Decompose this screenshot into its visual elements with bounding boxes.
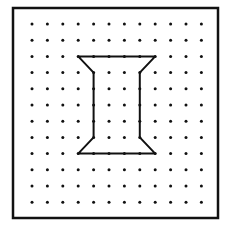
grid-dot — [154, 71, 157, 74]
grid-dot — [200, 55, 203, 58]
grid-dot — [61, 39, 64, 42]
grid-dot — [200, 23, 203, 26]
grid-dot — [108, 71, 111, 74]
grid-dot — [77, 104, 80, 107]
grid-dot — [154, 87, 157, 90]
grid-dot — [154, 120, 157, 123]
grid-dot — [31, 136, 34, 139]
grid-dot — [154, 39, 157, 42]
grid-dot — [123, 39, 126, 42]
grid-dot — [61, 136, 64, 139]
grid-dot — [31, 71, 34, 74]
grid-dot — [169, 201, 172, 204]
grid-dot — [31, 23, 34, 26]
grid-dot — [31, 152, 34, 155]
grid-dot — [77, 87, 80, 90]
grid-dot — [123, 104, 126, 107]
grid-dot — [123, 23, 126, 26]
grid-dot — [61, 185, 64, 188]
grid-dot — [77, 120, 80, 123]
grid-dot — [46, 87, 49, 90]
grid-dot — [46, 23, 49, 26]
grid-dot — [46, 152, 49, 155]
grid-dot — [200, 104, 203, 107]
grid-dot — [108, 39, 111, 42]
grid-dot — [123, 136, 126, 139]
grid-dot — [138, 201, 141, 204]
grid-dot — [31, 87, 34, 90]
grid-dot — [77, 185, 80, 188]
grid-dot — [169, 39, 172, 42]
grid-dot — [185, 136, 188, 139]
grid-dot — [61, 104, 64, 107]
grid-dot — [123, 168, 126, 171]
grid-dot — [61, 168, 64, 171]
grid-dot — [185, 168, 188, 171]
grid-dot — [108, 136, 111, 139]
grid-dot — [138, 185, 141, 188]
grid-dot — [108, 168, 111, 171]
grid-dot — [169, 120, 172, 123]
grid-dot — [169, 152, 172, 155]
grid-dot — [108, 120, 111, 123]
grid-dot — [31, 120, 34, 123]
grid-dot — [169, 71, 172, 74]
grid-dot — [92, 185, 95, 188]
grid-dot — [108, 104, 111, 107]
grid-dot — [61, 71, 64, 74]
dot-grid — [31, 23, 203, 204]
grid-dot — [61, 55, 64, 58]
grid-dot — [154, 201, 157, 204]
grid-dot — [154, 104, 157, 107]
grid-dot — [31, 55, 34, 58]
grid-dot — [77, 39, 80, 42]
grid-dot — [185, 87, 188, 90]
grid-dot — [185, 152, 188, 155]
grid-dot — [46, 185, 49, 188]
grid-dot — [200, 185, 203, 188]
grid-dot — [77, 168, 80, 171]
grid-dot — [200, 168, 203, 171]
grid-dot — [92, 23, 95, 26]
grid-dot — [46, 71, 49, 74]
grid-dot — [185, 201, 188, 204]
grid-dot — [77, 23, 80, 26]
grid-dot — [108, 201, 111, 204]
grid-dot — [154, 185, 157, 188]
grid-dot — [92, 168, 95, 171]
grid-dot — [46, 168, 49, 171]
grid-dot — [77, 71, 80, 74]
grid-dot — [138, 39, 141, 42]
grid-dot — [185, 104, 188, 107]
grid-dot — [138, 168, 141, 171]
grid-dot — [123, 185, 126, 188]
grid-dot — [61, 120, 64, 123]
grid-dot — [46, 120, 49, 123]
grid-dot — [200, 39, 203, 42]
grid-dot — [46, 136, 49, 139]
grid-dot — [185, 120, 188, 123]
grid-dot — [123, 87, 126, 90]
grid-dot — [61, 87, 64, 90]
grid-dot — [200, 201, 203, 204]
grid-dot — [138, 23, 141, 26]
grid-dot — [200, 136, 203, 139]
grid-dot — [61, 201, 64, 204]
grid-dot — [46, 39, 49, 42]
grid-dot — [154, 23, 157, 26]
grid-dot — [169, 104, 172, 107]
grid-dot — [46, 104, 49, 107]
grid-dot — [169, 168, 172, 171]
grid-dot — [31, 39, 34, 42]
grid-dot — [46, 55, 49, 58]
grid-dot — [200, 120, 203, 123]
grid-dot — [108, 23, 111, 26]
grid-dot — [185, 185, 188, 188]
grid-dot — [200, 71, 203, 74]
grid-dot — [169, 185, 172, 188]
grid-dot — [31, 185, 34, 188]
grid-dot — [108, 185, 111, 188]
grid-dot — [108, 87, 111, 90]
grid-dot — [31, 168, 34, 171]
grid-dot — [185, 55, 188, 58]
